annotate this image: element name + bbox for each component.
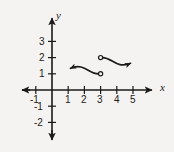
coordinate-plane bbox=[0, 0, 174, 152]
x-tick-label-4: 4 bbox=[114, 95, 120, 105]
curve-lower-branch bbox=[71, 67, 103, 76]
curve-lower-path bbox=[71, 67, 100, 74]
y-tick-label-neg2: -2 bbox=[34, 118, 43, 128]
open-circle-upper bbox=[99, 56, 103, 60]
curve-upper-branch bbox=[99, 56, 131, 65]
x-axis-label: x bbox=[160, 82, 165, 93]
y-tick-label-2: 2 bbox=[39, 53, 45, 63]
open-circle-lower bbox=[99, 72, 103, 76]
x-tick-label-2: 2 bbox=[81, 95, 87, 105]
y-axis-label: y bbox=[56, 10, 61, 21]
y-tick-label-3: 3 bbox=[39, 37, 45, 47]
x-tick-label-3: 3 bbox=[97, 95, 103, 105]
x-tick-label-5: 5 bbox=[130, 95, 136, 105]
y-tick-label-neg1: -1 bbox=[34, 102, 43, 112]
graph-figure: x y -1 1 2 3 4 5 3 2 1 -1 -2 bbox=[0, 0, 174, 152]
y-tick-label-1: 1 bbox=[39, 69, 45, 79]
x-tick-label-1: 1 bbox=[65, 95, 71, 105]
curve-upper-path bbox=[102, 58, 131, 65]
